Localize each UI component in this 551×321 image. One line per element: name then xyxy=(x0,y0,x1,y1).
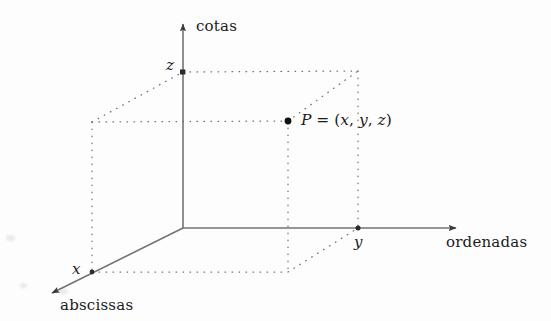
dotted-top-left-diagonal xyxy=(92,72,183,122)
tick-marks xyxy=(90,70,361,275)
point-p-coord-x: x xyxy=(340,111,349,129)
tick-label-z: z xyxy=(166,58,174,73)
point-p-sep-2: , xyxy=(368,111,378,129)
dotted-top-rear-edge xyxy=(183,71,358,72)
point-p-equals: = ( xyxy=(311,111,340,129)
point-p-close-paren: ) xyxy=(386,111,392,129)
dotted-construction-box xyxy=(92,71,358,272)
axis-label-abscissas: abscissas xyxy=(60,298,133,313)
point-p-coord-y: y xyxy=(359,111,368,129)
dotted-front-top-edge xyxy=(92,121,288,122)
coordinate-system-figure: cotas ordenadas abscissas z y x P = (x, … xyxy=(0,0,551,321)
tick-label-x: x xyxy=(72,262,80,277)
axis-label-cotas: cotas xyxy=(196,19,237,34)
y-tick-mark xyxy=(356,226,361,231)
point-p-name: P xyxy=(301,111,311,129)
point-p-marker xyxy=(285,118,292,125)
point-p-label: P = (x, y, z) xyxy=(301,113,392,129)
point-p-sep-1: , xyxy=(349,111,359,129)
tick-label-y: y xyxy=(354,235,362,250)
figure-canvas xyxy=(0,0,551,321)
axes-group xyxy=(52,24,456,293)
dotted-bottom-diagonal xyxy=(288,228,358,272)
axis-label-ordenadas: ordenadas xyxy=(446,235,527,250)
x-tick-mark xyxy=(90,270,95,275)
z-tick-mark xyxy=(180,70,185,75)
point-p-coord-z: z xyxy=(378,111,386,129)
